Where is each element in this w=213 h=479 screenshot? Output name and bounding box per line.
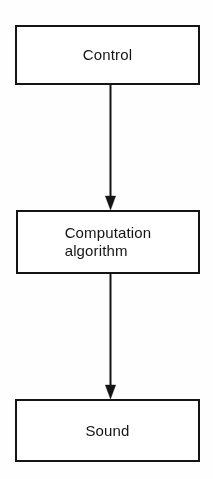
node-control: Control bbox=[15, 25, 200, 85]
node-sound: Sound bbox=[15, 399, 200, 462]
arrowhead-icon bbox=[105, 385, 115, 399]
node-computation-algorithm-label: Computation algorithm bbox=[65, 224, 152, 260]
node-control-label: Control bbox=[83, 46, 132, 64]
arrowhead-icon bbox=[105, 196, 115, 210]
flow-diagram: Control Computation algorithm Sound bbox=[0, 0, 213, 479]
node-computation-algorithm: Computation algorithm bbox=[16, 210, 200, 274]
arrow-computation-to-sound bbox=[105, 274, 115, 399]
arrow-control-to-computation bbox=[105, 85, 115, 210]
node-sound-label: Sound bbox=[85, 422, 129, 440]
